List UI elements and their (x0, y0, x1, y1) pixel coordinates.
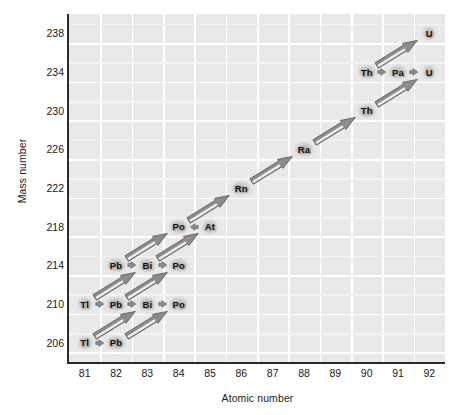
horizontal-gridline (69, 140, 445, 142)
x-tick-label: 88 (289, 367, 319, 379)
horizontal-gridline (69, 82, 445, 84)
nuclide-label-bi-214: Bi (139, 258, 155, 272)
x-tick-label: 90 (352, 367, 382, 379)
horizontal-gridline (69, 120, 445, 122)
x-tick-label: 81 (70, 367, 100, 379)
horizontal-gridline (69, 236, 445, 238)
horizontal-gridline (69, 352, 445, 354)
x-tick-label: 82 (101, 367, 131, 379)
vertical-gridline (257, 14, 259, 362)
nuclide-label-th-230: Th (358, 104, 376, 118)
y-tick-label: 210 (24, 298, 64, 310)
beta-decay-arrow-83-214-to-84-214 (159, 262, 167, 270)
y-tick-label: 214 (24, 259, 64, 271)
x-tick-label: 89 (320, 367, 350, 379)
decay-series-figure: Mass number Atomic number 23823423022622… (0, 0, 449, 415)
vertical-gridline (226, 14, 228, 362)
nuclide-label-pb-210: Pb (107, 297, 126, 311)
nuclide-label-u-234: U (423, 65, 436, 79)
y-tick-label: 230 (24, 105, 64, 117)
horizontal-gridline (69, 217, 445, 219)
vertical-gridline (414, 14, 416, 362)
nuclide-label-u-238: U (423, 26, 436, 40)
nuclide-label-tl-210: Tl (77, 297, 92, 311)
plot-area: UThPaUThRaRnPoAtPbBiPoTlPbBiPoTlPb (69, 14, 445, 362)
y-tick-label: 222 (24, 182, 64, 194)
x-tick-label: 91 (383, 367, 413, 379)
vertical-gridline (351, 14, 353, 362)
beta-decay-arrow-91-234-to-92-234 (409, 68, 417, 76)
x-tick-label: 84 (164, 367, 194, 379)
beta-decay-arrow-82-214-to-83-214 (127, 262, 135, 270)
vertical-gridline (288, 14, 290, 362)
vertical-gridline (194, 14, 196, 362)
x-tick-label: 92 (414, 367, 444, 379)
horizontal-gridline (69, 159, 445, 161)
beta-decay-arrow-81-210-to-82-210 (96, 300, 104, 308)
nuclide-label-ra-226: Ra (295, 142, 314, 156)
beta-decay-arrow-81-206-to-82-206 (96, 339, 104, 347)
nuclide-label-po-218: Po (169, 220, 188, 234)
y-axis-tick-labels: 238234230226222218214210206 (22, 0, 64, 415)
nuclide-label-pb-214: Pb (107, 258, 126, 272)
x-tick-label: 87 (258, 367, 288, 379)
nuclide-label-bi-210: Bi (139, 297, 155, 311)
nuclide-label-po-214: Po (169, 258, 188, 272)
horizontal-gridline (69, 24, 445, 26)
y-tick-label: 206 (24, 337, 64, 349)
nuclide-label-at-218: At (202, 220, 218, 234)
x-tick-label: 86 (226, 367, 256, 379)
beta-decay-arrow-90-234-to-91-234 (378, 68, 386, 76)
horizontal-gridline (69, 43, 445, 45)
horizontal-gridline (69, 198, 445, 200)
x-tick-label: 83 (132, 367, 162, 379)
nuclide-label-rn-222: Rn (232, 181, 251, 195)
beta-decay-arrow-82-210-to-83-210 (127, 300, 135, 308)
vertical-gridline (320, 14, 322, 362)
nuclide-label-po-210: Po (169, 297, 188, 311)
y-tick-label: 218 (24, 221, 64, 233)
y-tick-label: 234 (24, 66, 64, 78)
nuclide-label-pa-234: Pa (389, 65, 407, 79)
beta-decay-arrow-85-218-to-84-218 (190, 223, 198, 231)
x-tick-label: 85 (195, 367, 225, 379)
beta-decay-arrow-83-210-to-84-210 (159, 300, 167, 308)
nuclide-label-tl-206: Tl (77, 336, 92, 350)
nuclide-label-th-234: Th (358, 65, 376, 79)
vertical-gridline (100, 14, 102, 362)
y-tick-label: 238 (24, 27, 64, 39)
y-tick-label: 226 (24, 143, 64, 155)
x-axis-title: Atomic number (70, 392, 445, 404)
nuclide-label-pb-206: Pb (107, 336, 126, 350)
